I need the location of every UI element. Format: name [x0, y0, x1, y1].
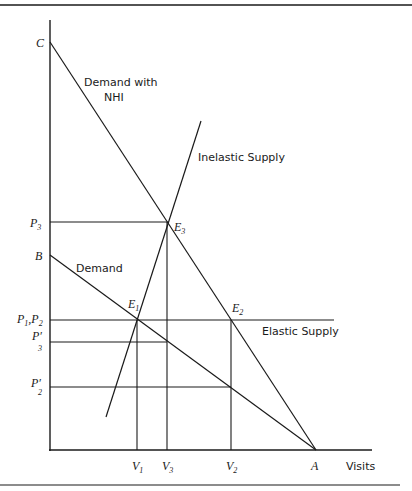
demand-curve: [50, 255, 316, 450]
inelastic-supply-label: Inelastic Supply: [198, 151, 285, 164]
label-v2: V2: [226, 459, 237, 475]
label-v3: V3: [162, 459, 173, 475]
demand-nhi-label: Demand with: [84, 76, 158, 89]
label-e2: E2: [231, 301, 243, 317]
label-p3-prime: P′: [31, 329, 42, 343]
demand-nhi-label-2: NHI: [104, 91, 124, 104]
label-p3: P3: [29, 216, 41, 232]
demand-nhi-curve: [50, 42, 316, 450]
elastic-supply-label: Elastic Supply: [262, 325, 339, 338]
label-p2-prime-sub: 2: [38, 388, 42, 397]
demand-label: Demand: [76, 262, 123, 275]
label-c: C: [36, 36, 45, 50]
supply-demand-diagram: Demand with NHI Inelastic Supply Demand …: [0, 0, 412, 491]
label-p3-prime-sub: 3: [37, 344, 42, 353]
label-b: B: [35, 249, 43, 263]
label-a: A: [310, 459, 319, 473]
label-e3: E3: [173, 220, 185, 236]
label-v1: V1: [132, 459, 143, 475]
label-e1: E1: [127, 297, 139, 313]
label-p1-p2: P1,P2: [16, 312, 43, 328]
x-axis-label: Visits: [346, 460, 375, 473]
